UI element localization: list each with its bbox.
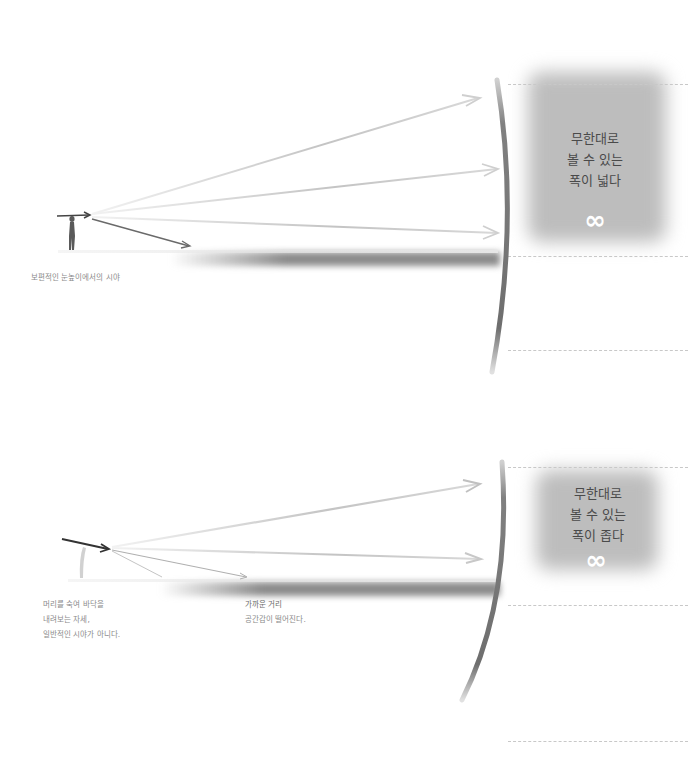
horizon-curve: [492, 80, 507, 372]
sight-rays: [92, 95, 498, 248]
standing-person-icon: [69, 216, 75, 250]
sight-line-diagram: [0, 0, 691, 770]
bending-person-icon: [80, 547, 86, 578]
sight-rays: [112, 480, 481, 579]
horizon-curve: [462, 462, 504, 700]
